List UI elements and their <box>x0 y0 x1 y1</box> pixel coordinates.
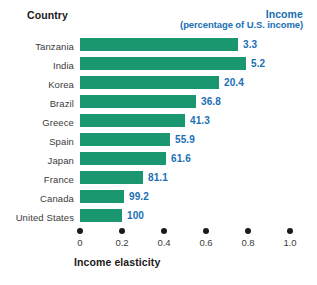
bar-value-label: 61.6 <box>171 152 191 165</box>
bar-row-country-label: Japan <box>0 152 74 167</box>
bar-row-country-label: France <box>0 171 74 186</box>
bar <box>80 95 196 108</box>
x-axis-tick-label: 0.4 <box>147 237 181 248</box>
x-axis: 00.20.40.60.81.0 <box>0 228 317 254</box>
bar-track: 5.2 <box>80 57 317 70</box>
bar-value-label: 20.4 <box>224 76 244 89</box>
income-elasticity-chart: Country Income (percentage of U.S. incom… <box>0 0 317 285</box>
bar-track: 36.8 <box>80 95 317 108</box>
bar-row: United States100 <box>0 209 317 228</box>
bar-track: 100 <box>80 209 317 222</box>
bar-row: Brazil36.8 <box>0 95 317 114</box>
x-axis-tick-label: 0.6 <box>189 237 223 248</box>
bar-row-country-label: Brazil <box>0 95 74 110</box>
bar <box>80 38 238 51</box>
x-axis-tick: 0.4 <box>147 228 181 248</box>
bar-rows-container: Tanzania3.3India5.2Korea20.4Brazil36.8Gr… <box>0 38 317 228</box>
bar-row: Japan61.6 <box>0 152 317 171</box>
x-axis-tick-dot-icon <box>119 228 125 234</box>
x-axis-tick: 1.0 <box>273 228 307 248</box>
bar-row-country-label: India <box>0 57 74 72</box>
bar-row: Canada99.2 <box>0 190 317 209</box>
bar-value-label: 41.3 <box>190 114 210 127</box>
bar-row: Greece41.3 <box>0 114 317 133</box>
bar <box>80 57 246 70</box>
bar-value-label: 5.2 <box>251 57 265 70</box>
bar-track: 61.6 <box>80 152 317 165</box>
column-header-income-subtitle: (percentage of U.S. income) <box>180 20 303 31</box>
x-axis-tick: 0.6 <box>189 228 223 248</box>
bar-row: India5.2 <box>0 57 317 76</box>
bar-value-label: 55.9 <box>175 133 195 146</box>
bar-track: 20.4 <box>80 76 317 89</box>
x-axis-tick-dot-icon <box>77 228 83 234</box>
bar-row: Tanzania3.3 <box>0 38 317 57</box>
x-axis-title: Income elasticity <box>74 256 160 268</box>
bar-value-label: 100 <box>127 209 144 222</box>
x-axis-tick-dot-icon <box>245 228 251 234</box>
bar <box>80 171 143 184</box>
x-axis-tick: 0 <box>63 228 97 248</box>
bar <box>80 114 185 127</box>
bar <box>80 190 124 203</box>
x-axis-tick: 0.2 <box>105 228 139 248</box>
bar-row-country-label: Canada <box>0 190 74 205</box>
bar-value-label: 3.3 <box>243 38 257 51</box>
bar-value-label: 99.2 <box>129 190 149 203</box>
x-axis-tick-dot-icon <box>161 228 167 234</box>
bar-row-country-label: Korea <box>0 76 74 91</box>
bar-row: Spain55.9 <box>0 133 317 152</box>
x-axis-tick-label: 1.0 <box>273 237 307 248</box>
bar-track: 3.3 <box>80 38 317 51</box>
column-header-income: Income (percentage of U.S. income) <box>180 8 303 31</box>
bar-track: 41.3 <box>80 114 317 127</box>
bar-row-country-label: Tanzania <box>0 38 74 53</box>
bar-track: 55.9 <box>80 133 317 146</box>
bar-row: Korea20.4 <box>0 76 317 95</box>
bar <box>80 152 166 165</box>
bar-value-label: 36.8 <box>201 95 221 108</box>
x-axis-tick-label: 0.2 <box>105 237 139 248</box>
x-axis-tick-dot-icon <box>203 228 209 234</box>
bar-value-label: 81.1 <box>148 171 168 184</box>
bar-track: 99.2 <box>80 190 317 203</box>
bar <box>80 133 170 146</box>
bar <box>80 76 219 89</box>
x-axis-tick-label: 0 <box>63 237 97 248</box>
bar-row-country-label: Spain <box>0 133 74 148</box>
bar-track: 81.1 <box>80 171 317 184</box>
bar-row-country-label: United States <box>0 209 74 224</box>
bar-row-country-label: Greece <box>0 114 74 129</box>
bar-row: France81.1 <box>0 171 317 190</box>
x-axis-tick-dot-icon <box>287 228 293 234</box>
x-axis-tick-label: 0.8 <box>231 237 265 248</box>
column-header-country: Country <box>27 9 68 21</box>
bar <box>80 209 122 222</box>
x-axis-tick: 0.8 <box>231 228 265 248</box>
